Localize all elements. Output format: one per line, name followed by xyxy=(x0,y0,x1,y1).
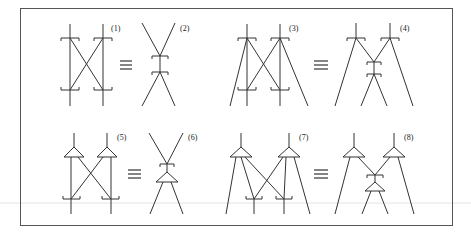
equivalence-symbol-3 xyxy=(128,170,141,178)
figure-label: (6) xyxy=(188,133,198,142)
equivalence-symbol-4 xyxy=(314,170,328,178)
figure-label: (8) xyxy=(404,133,414,142)
figure-2: (2) xyxy=(142,23,190,106)
figure-label: (1) xyxy=(111,24,121,33)
figure-label: (4) xyxy=(400,24,410,33)
figure-3: (3) xyxy=(230,24,308,106)
figure-1: (1) xyxy=(61,24,121,106)
figure-label: (7) xyxy=(299,133,309,142)
equivalence-diagram: (1) (2) (3) xyxy=(0,0,471,234)
equivalence-symbol-1 xyxy=(120,61,132,69)
figure-8: (8) xyxy=(335,133,414,214)
equivalence-symbol-2 xyxy=(314,61,328,69)
figure-6: (6) xyxy=(149,133,198,214)
figure-label: (5) xyxy=(117,133,127,142)
figure-5: (5) xyxy=(63,133,127,214)
figure-label: (2) xyxy=(180,24,190,33)
figure-7: (7) xyxy=(226,133,310,214)
figure-label: (3) xyxy=(289,24,299,33)
figure-4: (4) xyxy=(335,23,413,106)
